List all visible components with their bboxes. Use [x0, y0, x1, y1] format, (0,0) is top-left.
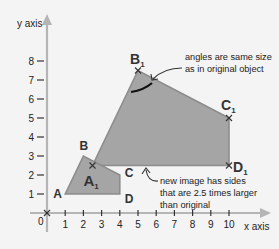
- angles-note-line-2: as in original object: [185, 64, 264, 74]
- y-axis-label: y axis: [17, 18, 43, 29]
- y-ticks: 12345678: [28, 56, 44, 200]
- vertex-label-b1: B1: [130, 51, 145, 69]
- y-tick-label: 3: [28, 151, 34, 162]
- x-tick-label: 5: [135, 219, 141, 230]
- angles-annotation: angles are same size as in original obje…: [151, 52, 272, 80]
- y-tick-label: 4: [28, 132, 34, 143]
- coordinate-diagram: x axis y axis 0 12345678910 12345678 ABC…: [0, 0, 279, 249]
- origin-label: 0: [38, 216, 44, 227]
- x-tick-label: 10: [223, 219, 235, 230]
- angles-note-line-1: angles are same size: [185, 52, 272, 62]
- x-axis-arrowhead: [260, 208, 271, 218]
- enlarged-shape-a1b1c1d1: [93, 71, 230, 166]
- callout-arrow-icon: [153, 68, 182, 79]
- x-tick-label: 1: [62, 219, 68, 230]
- vertex-label-d1: D1: [233, 159, 248, 177]
- callout-arrow-icon: [146, 170, 158, 181]
- vertex-label-c: C: [125, 166, 134, 180]
- x-tick-label: 8: [190, 219, 196, 230]
- vertex-label-b: B: [79, 139, 88, 153]
- y-tick-label: 5: [28, 113, 34, 124]
- y-tick-label: 8: [28, 56, 34, 67]
- x-tick-label: 4: [117, 219, 123, 230]
- y-axis-arrowhead: [42, 14, 52, 25]
- vertex-subscript: 1: [231, 106, 236, 115]
- y-tick-label: 7: [28, 75, 34, 86]
- y-tick-label: 1: [28, 189, 34, 200]
- x-tick-label: 9: [208, 219, 214, 230]
- y-tick-label: 2: [28, 170, 34, 181]
- x-tick-label: 6: [153, 219, 159, 230]
- sides-note-line-1: new image has sides: [160, 176, 246, 186]
- sides-note-line-3: than original: [160, 200, 210, 210]
- x-tick-label: 7: [172, 219, 178, 230]
- vertex-b1: B1: [130, 51, 145, 74]
- vertex-subscript: 1: [94, 182, 99, 191]
- y-tick-label: 6: [28, 94, 34, 105]
- x-tick-label: 2: [81, 219, 87, 230]
- vertex-label-a: A: [53, 187, 62, 201]
- vertex-subscript: 1: [140, 60, 145, 69]
- vertex-label-d: D: [125, 192, 134, 206]
- vertex-label-c1: C1: [221, 97, 236, 115]
- sides-note-line-2: that are 2.5 times larger: [160, 188, 257, 198]
- x-tick-label: 3: [99, 219, 105, 230]
- x-axis-label: x axis: [244, 221, 270, 232]
